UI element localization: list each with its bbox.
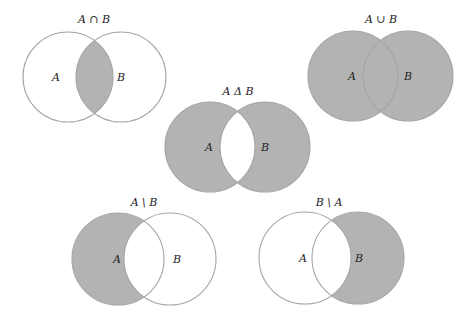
set-b-label: B (403, 70, 412, 83)
diagram-title-b-minus-a: B \ A (315, 196, 343, 209)
venn-union: A ∪ B A B (308, 13, 453, 121)
venn-diagram-panel: A ∩ B A B A ∪ B A B A Δ B A (0, 0, 476, 321)
set-b-label: B (354, 252, 363, 265)
diagram-title-symmetric-difference: A Δ B (222, 85, 254, 98)
diagram-title-union: A ∪ B (364, 13, 397, 26)
set-b-label: B (260, 141, 269, 154)
set-a-label: A (298, 252, 307, 265)
shaded-region-symmetric-difference (165, 102, 310, 192)
venn-intersection: A ∩ B A B (23, 13, 166, 122)
venn-symmetric-difference: A Δ B A B (165, 85, 310, 192)
set-a-label: A (51, 71, 60, 84)
set-a-label: A (204, 141, 213, 154)
set-b-label: B (116, 71, 125, 84)
venn-b-minus-a: B \ A A B (259, 196, 404, 304)
diagram-title-intersection: A ∩ B (77, 13, 110, 26)
set-a-label: A (112, 253, 121, 266)
set-b-label: B (172, 253, 181, 266)
diagram-title-a-minus-b: A \ B (130, 196, 158, 209)
venn-diagrams-svg: A ∩ B A B A ∪ B A B A Δ B A (0, 0, 476, 321)
venn-a-minus-b: A \ B A B (72, 196, 216, 305)
set-a-label: A (347, 70, 356, 83)
